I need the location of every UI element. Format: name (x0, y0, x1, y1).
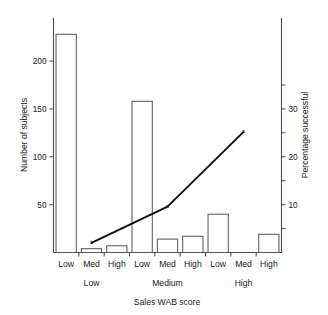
x-axis-category-label: Med (235, 259, 252, 269)
bar (208, 214, 228, 252)
bar (107, 246, 127, 253)
x-axis-category-label: High (260, 259, 278, 269)
x-axis-category-label: High (108, 259, 126, 269)
bar (183, 236, 203, 252)
left-axis-tick-label: 150 (33, 104, 47, 114)
x-axis-group-label: Medium (152, 278, 183, 288)
bar (56, 34, 76, 252)
x-axis-category-label: Med (159, 259, 176, 269)
right-axis-title: Percentage successful (300, 92, 310, 179)
right-axis-ticks (282, 85, 286, 229)
x-axis-title: Sales WAB score (134, 297, 201, 307)
left-axis-tick-label: 100 (33, 152, 47, 162)
x-axis-category-labels: LowMedHighLowMedHighLowMedHigh (58, 259, 278, 269)
left-axis-ticks (50, 61, 54, 205)
chart-figure: 20015010050 Number of subjects 302010 Pe… (0, 0, 328, 315)
x-axis-category-label: Low (210, 259, 227, 269)
right-axis-tick-label: 30 (289, 104, 299, 114)
left-axis-tick-labels: 20015010050 (33, 56, 47, 210)
x-axis-category-label: High (184, 259, 202, 269)
left-axis-title: Number of subjects (19, 98, 29, 172)
x-axis-group-label: Low (84, 278, 101, 288)
right-axis-tick-label: 10 (289, 200, 299, 210)
bar (157, 239, 177, 252)
chart-canvas: 20015010050 Number of subjects 302010 Pe… (0, 0, 328, 315)
x-axis-ticks (79, 253, 256, 257)
left-axis-tick-label: 50 (37, 200, 47, 210)
x-axis-category-label: Low (58, 259, 75, 269)
right-axis-tick-labels: 302010 (289, 104, 299, 210)
x-axis-category-label: Med (83, 259, 100, 269)
x-axis-group-labels: LowMediumHigh (84, 278, 253, 288)
bar (259, 234, 279, 252)
trend-marker-x: x (242, 127, 246, 134)
right-axis-tick-label: 20 (289, 152, 299, 162)
bar (132, 101, 152, 252)
right-axis: 302010 Percentage successful (282, 18, 311, 253)
x-axis-category-label: Low (134, 259, 151, 269)
bar (81, 249, 101, 253)
bars-group (56, 34, 279, 252)
left-axis: 20015010050 Number of subjects (19, 18, 54, 253)
left-axis-tick-label: 200 (33, 56, 47, 66)
x-axis-group-label: High (235, 278, 253, 288)
